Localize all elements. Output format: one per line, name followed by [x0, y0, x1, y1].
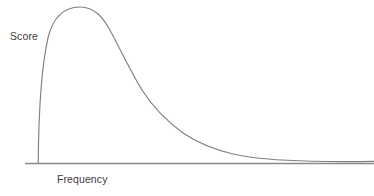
y-axis-label: Score [10, 30, 38, 42]
chart-figure: Score Frequency [0, 0, 374, 196]
x-axis-label: Frequency [57, 173, 108, 185]
distribution-curve [38, 7, 374, 163]
distribution-plot [0, 0, 374, 196]
